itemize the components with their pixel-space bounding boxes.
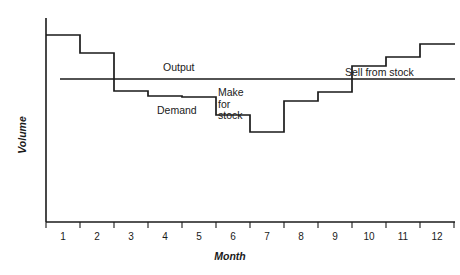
x-tick-label: 11: [393, 231, 413, 242]
make-for-stock-line-3: stock: [218, 110, 244, 122]
x-tick-label: 1: [53, 231, 73, 242]
x-tick-label: 9: [325, 231, 345, 242]
x-tick-label: 6: [223, 231, 243, 242]
demand-step-curve: [46, 35, 455, 132]
demand-annotation-label: Demand: [157, 105, 197, 117]
make-for-stock-line-1: Make: [218, 87, 244, 99]
x-tick-label: 4: [155, 231, 175, 242]
x-tick-label: 7: [257, 231, 277, 242]
y-axis-title: Volume: [16, 116, 28, 154]
x-tick-label: 3: [121, 231, 141, 242]
x-axis-title: Month: [214, 250, 246, 262]
make-for-stock-annotation: Make for stock: [218, 87, 244, 122]
x-tick-label: 8: [291, 231, 311, 242]
sell-from-stock-annotation: Sell from stock: [345, 67, 414, 79]
x-tick-label: 10: [359, 231, 379, 242]
x-tick-label: 12: [427, 231, 447, 242]
chart-figure: 1 2 3 4 5 6 7 8 9 10 11 12 Month Volume …: [0, 0, 460, 275]
x-tick-label: 2: [87, 231, 107, 242]
x-tick-label: 5: [189, 231, 209, 242]
x-axis-ticks: [46, 222, 454, 228]
output-annotation-label: Output: [163, 62, 195, 74]
